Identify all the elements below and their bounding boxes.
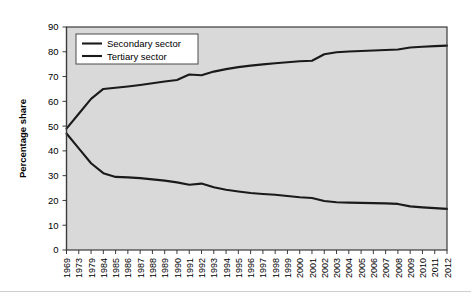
x-axis-tick-label: 1979 — [87, 258, 97, 278]
x-axis-tick-label: 1985 — [111, 258, 121, 278]
y-axis-tick-label: 90 — [48, 21, 59, 32]
x-axis-tick-label: 1988 — [148, 258, 158, 278]
y-axis-tick-label: 60 — [48, 96, 59, 107]
x-axis-tick-label: 2006 — [369, 258, 379, 278]
x-axis-tick-label: 1973 — [74, 258, 84, 278]
x-axis-tick-label: 1991 — [185, 258, 195, 278]
x-axis-tick-label: 1994 — [222, 258, 232, 278]
x-axis-tick-label: 1986 — [123, 258, 133, 278]
x-axis-tick-label: 2009 — [406, 258, 416, 278]
y-axis-tick-label: 70 — [48, 71, 59, 82]
x-axis-tick-label: 1984 — [99, 258, 109, 278]
y-axis-tick-label: 10 — [48, 220, 59, 231]
y-axis-tick-label: 0 — [53, 244, 58, 255]
y-axis-tick-label: 20 — [48, 195, 59, 206]
x-axis-tick-label: 2002 — [320, 258, 330, 278]
x-axis-tick-label: 1993 — [209, 258, 219, 278]
x-axis-tick-label: 1999 — [283, 258, 293, 278]
x-axis-tick-label: 1990 — [173, 258, 183, 278]
y-axis-tick-label: 50 — [48, 121, 59, 132]
x-axis-tick-label: 1969 — [62, 258, 72, 278]
x-axis-tick-label: 2005 — [357, 258, 367, 278]
x-axis-tick-label: 2001 — [308, 258, 318, 278]
x-axis-tick-label: 2010 — [418, 258, 428, 278]
x-axis-tick-label: 1992 — [197, 258, 207, 278]
x-axis-tick-label: 2012 — [443, 258, 453, 278]
legend-label-secondary-sector: Secondary sector — [107, 38, 181, 49]
x-axis-tick-label: 1995 — [234, 258, 244, 278]
x-axis-tick-label: 1998 — [271, 258, 281, 278]
y-axis-tick-label: 80 — [48, 46, 59, 57]
x-axis-tick-label: 2007 — [381, 258, 391, 278]
y-axis-title: Percentage share — [17, 99, 28, 178]
x-axis-tick-label: 1989 — [160, 258, 170, 278]
x-axis-tick-label: 2004 — [344, 258, 354, 278]
x-axis-tick-label: 2000 — [295, 258, 305, 278]
x-axis-tick-label: 2008 — [394, 258, 404, 278]
y-axis-tick-label: 40 — [48, 145, 59, 156]
line-chart: 0102030405060708090196919731979198419851… — [0, 0, 471, 300]
x-axis-tick-label: 2003 — [332, 258, 342, 278]
x-axis-tick-label: 1996 — [246, 258, 256, 278]
x-axis-tick-label: 2011 — [430, 258, 440, 277]
x-axis-tick-label: 1987 — [136, 258, 146, 278]
chart-figure: 0102030405060708090196919731979198419851… — [0, 0, 471, 300]
legend-label-tertiary-sector: Tertiary sector — [107, 51, 167, 62]
y-axis-tick-label: 30 — [48, 170, 59, 181]
x-axis-tick-label: 1997 — [258, 258, 268, 278]
